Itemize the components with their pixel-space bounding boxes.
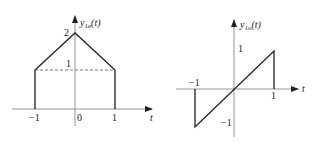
- xtick-0: 0: [77, 112, 82, 123]
- y-axis-label: y1o(t): [239, 19, 262, 32]
- even-part-chart: 2 1 −1 0 1 y1e(t) t: [12, 16, 153, 126]
- odd-part-chart: 1 −1 −1 1 y1o(t) t: [176, 19, 305, 137]
- ytick-1: 1: [66, 58, 71, 69]
- xtick-neg1: −1: [29, 112, 40, 123]
- ytick-1: 1: [238, 43, 243, 54]
- figure: 2 1 −1 0 1 y1e(t) t 1 −1 −1 1 y1o(t) t: [0, 0, 312, 143]
- xtick-1: 1: [112, 112, 117, 123]
- xtick-neg1: −1: [189, 77, 200, 88]
- xtick-1: 1: [271, 90, 276, 101]
- x-axis-label: t: [150, 112, 153, 123]
- ytick-2: 2: [64, 27, 69, 38]
- x-axis-label: t: [302, 83, 305, 94]
- y-axis-label: y1e(t): [79, 17, 101, 30]
- ytick-neg1: −1: [221, 117, 232, 128]
